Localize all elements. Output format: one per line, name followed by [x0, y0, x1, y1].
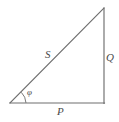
angle-arc-marker: [21, 92, 26, 103]
geometry-diagram: S Q P φ: [0, 0, 119, 122]
hypotenuse-line: [10, 8, 104, 103]
triangle-figure: [0, 0, 119, 122]
horizontal-leg-label: P: [57, 106, 64, 117]
hypotenuse-label: S: [45, 49, 51, 60]
angle-phi-label: φ: [27, 88, 32, 97]
vertical-leg-label: Q: [106, 52, 114, 63]
